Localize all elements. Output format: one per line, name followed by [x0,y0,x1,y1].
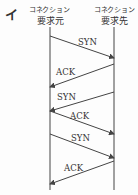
message-label-ack: ACK [64,163,83,173]
message-label-syn: SYN [78,37,97,47]
message-label-ack: ACK [56,67,75,77]
message-label-syn: SYN [57,92,76,102]
message-label-ack: ACK [70,111,89,121]
message-label-syn: SYN [71,133,90,143]
